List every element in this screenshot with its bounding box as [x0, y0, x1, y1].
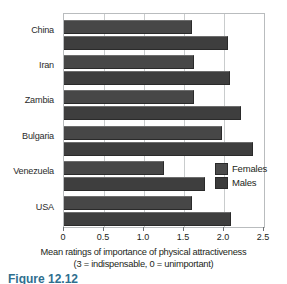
bar-venezuela-males	[64, 177, 205, 191]
chart-legend: Females Males	[215, 161, 285, 193]
legend-label-females: Females	[232, 164, 267, 174]
x-tick-0.5	[103, 227, 104, 231]
bar-iran-males	[64, 71, 230, 85]
category-label-zambia: Zambia	[2, 95, 54, 105]
figure-caption: Figure 12.12	[8, 272, 78, 284]
bar-bulgaria-females	[64, 126, 222, 140]
legend-row-males: Males	[215, 175, 256, 190]
x-tick-label-2.5: 2.5	[257, 232, 270, 242]
category-label-bulgaria: Bulgaria	[2, 131, 54, 141]
x-axis-title-note: (3 = indispensable, 0 = unimportant)	[0, 259, 287, 270]
legend-swatch-males-icon	[215, 177, 228, 189]
x-axis-tick-labels: 0 0.5 1.0 1.5 2.0 2.5	[63, 232, 263, 244]
x-tick-2.0	[223, 227, 224, 231]
x-tick-label-2.0: 2.0	[217, 232, 230, 242]
legend-swatch-females-icon	[215, 163, 228, 175]
plot-area: Females Males	[63, 13, 265, 228]
category-label-iran: Iran	[2, 60, 54, 70]
y-axis-category-labels: China Iran Zambia Bulgaria Venezuela USA	[0, 12, 58, 227]
x-tick-label-0: 0	[60, 232, 65, 242]
x-axis-title: Mean ratings of importance of physical a…	[0, 247, 287, 258]
x-tick-label-1.5: 1.5	[177, 232, 190, 242]
category-label-usa: USA	[2, 202, 54, 212]
bar-china-males	[64, 36, 228, 50]
figure-bar-chart: China Iran Zambia Bulgaria Venezuela USA	[0, 0, 287, 284]
bar-usa-males	[64, 212, 231, 226]
bar-china-females	[64, 20, 192, 34]
bar-bulgaria-males	[64, 142, 253, 156]
x-tick-1.5	[183, 227, 184, 231]
category-label-venezuela: Venezuela	[2, 166, 54, 176]
bar-zambia-females	[64, 90, 194, 104]
x-tick-label-0.5: 0.5	[97, 232, 110, 242]
category-label-china: China	[2, 25, 54, 35]
legend-row-females: Females	[215, 161, 267, 176]
bar-iran-females	[64, 55, 194, 69]
bar-usa-females	[64, 196, 192, 210]
bars-layer	[64, 14, 264, 227]
legend-label-males: Males	[232, 178, 256, 188]
x-tick-label-1.0: 1.0	[137, 232, 150, 242]
x-tick-0	[63, 227, 64, 231]
x-tick-2.5	[263, 227, 264, 231]
bar-zambia-males	[64, 106, 241, 120]
x-tick-1.0	[143, 227, 144, 231]
bar-venezuela-females	[64, 161, 164, 175]
